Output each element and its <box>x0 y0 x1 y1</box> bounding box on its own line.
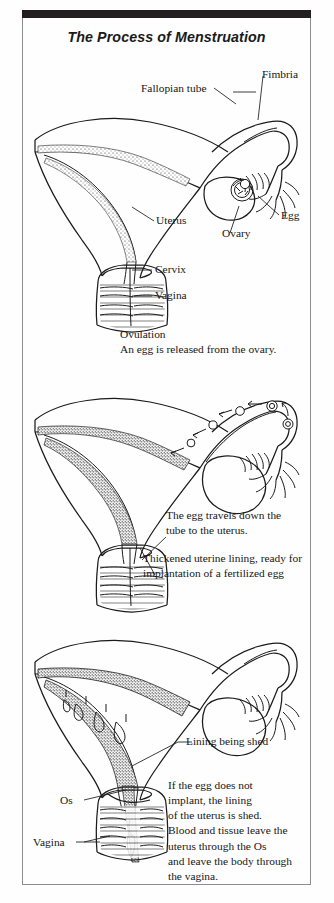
label-vagina-bottom: Vagina <box>33 836 65 849</box>
panel-shedding-drawing <box>0 0 334 903</box>
illustration-plate: The Process of Menstruation <box>0 0 334 903</box>
label-os: Os <box>60 794 73 807</box>
label-lining-being-shed: Lining being shed <box>186 735 268 748</box>
caption-shedding-body: If the egg does not implant, the lining … <box>168 778 292 884</box>
